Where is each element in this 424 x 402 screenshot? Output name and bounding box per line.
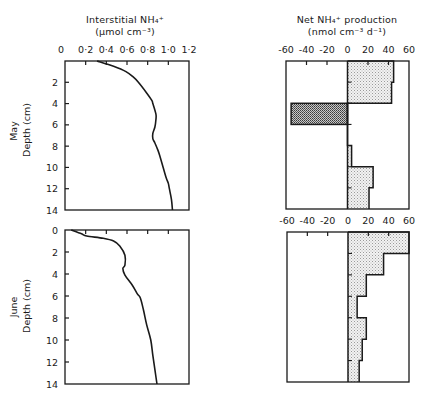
- y-tick-label: 14: [46, 205, 58, 216]
- plot-frame: [65, 230, 189, 384]
- positive-bar: [348, 296, 357, 317]
- chart-canvas: 00·20·40·60·81·01·22468101214 -60-40-200…: [0, 0, 424, 402]
- x-tick-label: 0·4: [99, 44, 114, 55]
- concentration-curve: [97, 61, 172, 210]
- x-tick-label: -60: [278, 44, 294, 55]
- y-tick-label: 12: [46, 357, 58, 368]
- negative-bar: [291, 103, 347, 124]
- positive-bar: [348, 253, 384, 274]
- june-production-panel: -60-40-200204060: [279, 215, 415, 382]
- positive-bar: [348, 188, 370, 209]
- y-tick-label: 6: [52, 119, 58, 130]
- x-tick-label: -20: [320, 215, 336, 226]
- positive-bar: [348, 82, 392, 103]
- x-tick-label: 0: [344, 44, 350, 55]
- x-tick-label: 20: [362, 215, 374, 226]
- y-tick-label: 6: [52, 291, 58, 302]
- x-tick-label: 60: [403, 44, 415, 55]
- y-tick-label: 2: [52, 77, 58, 88]
- x-tick-label: 0: [58, 44, 64, 55]
- plot-frame: [65, 61, 189, 210]
- x-tick-label: 40: [382, 44, 394, 55]
- y-tick-label: 4: [52, 98, 58, 109]
- x-tick-label: 0·6: [119, 44, 134, 55]
- may-concentration-panel: 00·20·40·60·81·01·22468101214: [46, 44, 197, 216]
- x-tick-label: 0·2: [78, 44, 93, 55]
- x-tick-label: 1·2: [181, 44, 196, 55]
- concentration-curve: [71, 230, 157, 384]
- x-tick-label: 40: [383, 215, 395, 226]
- x-tick-label: 1·0: [161, 44, 176, 55]
- positive-bar: [348, 167, 374, 188]
- x-tick-label: -40: [299, 44, 315, 55]
- y-tick-label: 10: [46, 162, 58, 173]
- may-production-panel: -60-40-200204060: [278, 44, 415, 209]
- y-tick-label: 12: [46, 183, 58, 194]
- x-tick-label: -40: [300, 215, 316, 226]
- positive-bar: [348, 339, 362, 360]
- y-tick-label: 2: [52, 247, 58, 258]
- x-tick-label: 20: [362, 44, 374, 55]
- y-tick-label: 4: [52, 269, 58, 280]
- x-tick-label: 0·8: [140, 44, 155, 55]
- x-tick-label: 60: [403, 215, 415, 226]
- june-concentration-panel: 02468101214: [46, 225, 189, 390]
- y-tick-label: 10: [46, 335, 58, 346]
- positive-bar: [348, 361, 359, 382]
- x-tick-label: -60: [279, 215, 295, 226]
- y-tick-label: 8: [52, 141, 58, 152]
- y-tick-label: 14: [46, 379, 58, 390]
- positive-bar: [348, 275, 366, 296]
- x-tick-label: -20: [319, 44, 335, 55]
- x-tick-label: 0: [345, 215, 351, 226]
- positive-bar: [348, 318, 366, 339]
- positive-bar: [348, 61, 394, 82]
- y-tick-label: 8: [52, 313, 58, 324]
- positive-bar: [348, 232, 409, 253]
- y-tick-label: 0: [52, 225, 58, 236]
